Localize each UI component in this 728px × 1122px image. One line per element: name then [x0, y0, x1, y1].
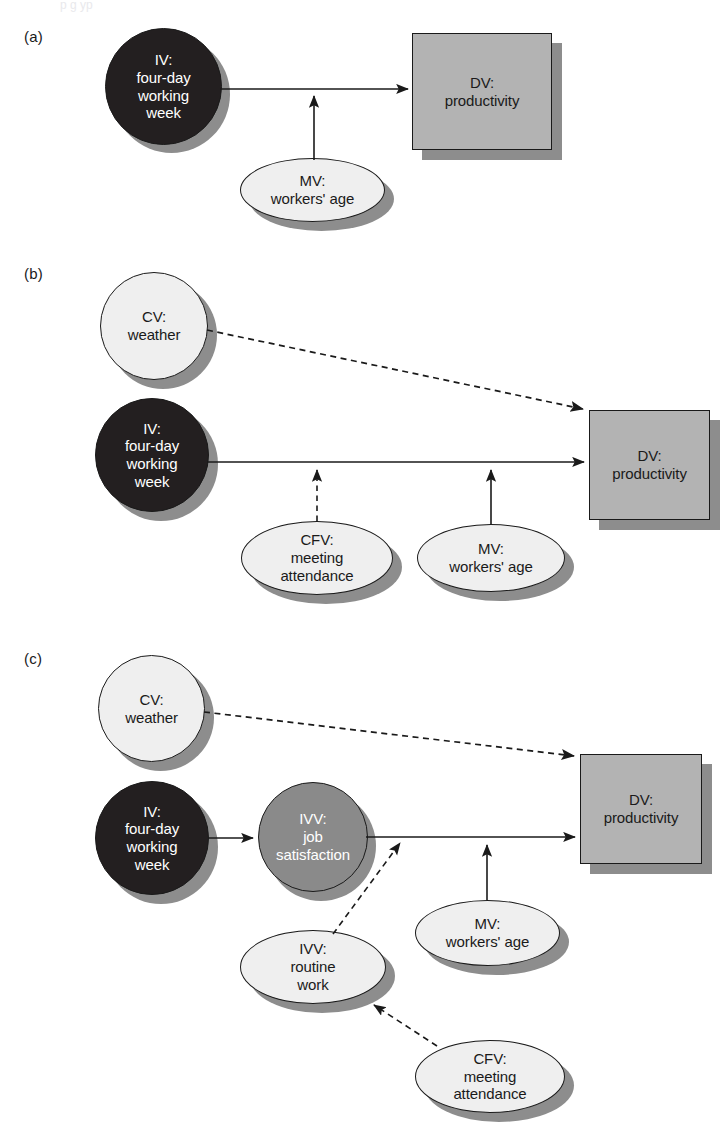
node-iv-b: IV: four-day working week	[95, 398, 209, 512]
node-ivv-routine-c-label: IVV: routine work	[286, 940, 339, 993]
node-dv-b-label: DV: productivity	[608, 447, 691, 482]
node-iv-c: IV: four-day working week	[95, 781, 209, 895]
node-cv-c: CV: weather	[98, 655, 205, 762]
node-mv-b-label: MV: workers' age	[445, 540, 536, 575]
node-ivv-routine-c: IVV: routine work	[240, 930, 386, 1004]
node-iv-a-label: IV: four-day working week	[132, 51, 194, 122]
node-cfv-b: CFV: meeting attendance	[241, 521, 393, 595]
cropped-caption-text: p g yp	[60, 0, 93, 12]
node-ivv-job-c: IVV: job satisfaction	[258, 782, 368, 892]
panel-label-b: (b)	[24, 265, 43, 282]
node-dv-c: DV: productivity	[580, 754, 702, 864]
node-iv-b-label: IV: four-day working week	[121, 420, 183, 491]
edge-c-cv-to-dv	[204, 712, 574, 756]
node-mv-c-label: MV: workers' age	[442, 915, 533, 950]
node-mv-a-label: MV: workers' age	[267, 172, 358, 207]
edge-c-cfv-to-ivv-routine	[374, 1005, 437, 1046]
node-dv-c-label: DV: productivity	[600, 791, 683, 826]
node-cfv-c-label: CFV: meeting attendance	[449, 1050, 530, 1103]
node-cv-b: CV: weather	[100, 272, 208, 380]
node-mv-c: MV: workers' age	[415, 900, 560, 966]
node-dv-a-label: DV: productivity	[441, 74, 524, 109]
node-mv-b: MV: workers' age	[417, 524, 565, 592]
node-ivv-job-c-label: IVV: job satisfaction	[272, 810, 354, 863]
node-dv-b: DV: productivity	[589, 410, 710, 520]
node-cfv-b-label: CFV: meeting attendance	[276, 531, 357, 584]
node-iv-c-label: IV: four-day working week	[121, 803, 183, 874]
panel-label-c: (c)	[24, 650, 42, 667]
node-iv-a: IV: four-day working week	[105, 28, 222, 145]
node-cv-c-label: CV: weather	[121, 691, 182, 726]
node-cv-b-label: CV: weather	[124, 308, 185, 343]
panel-label-a: (a)	[24, 28, 43, 45]
node-dv-a: DV: productivity	[412, 33, 552, 150]
node-mv-a: MV: workers' age	[240, 158, 385, 222]
edge-b-cv-to-dv	[207, 330, 583, 409]
node-cfv-c: CFV: meeting attendance	[415, 1040, 565, 1113]
